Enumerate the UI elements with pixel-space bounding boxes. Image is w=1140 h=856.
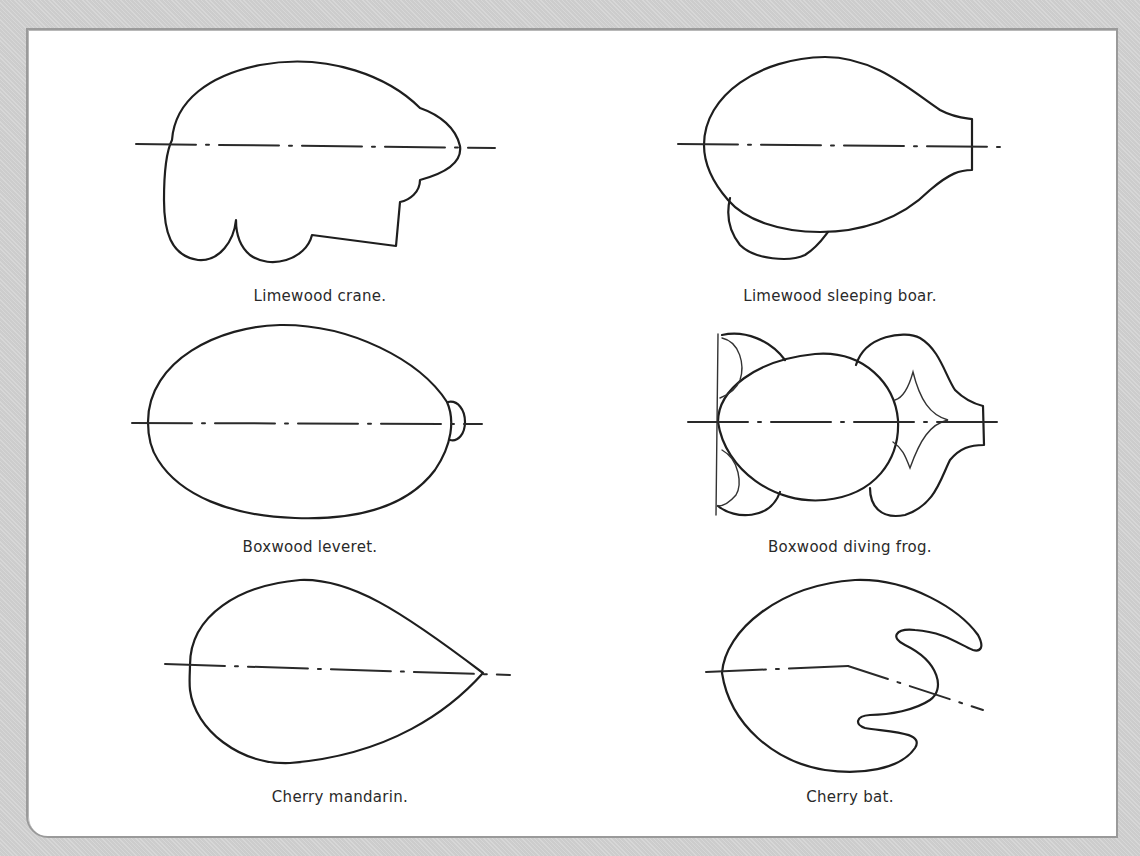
figure-boxwood-diving-frog: Boxwood diving frog. <box>680 320 1020 570</box>
figure-caption: Limewood crane. <box>120 287 520 305</box>
figure-boxwood-leveret: Boxwood leveret. <box>120 310 500 570</box>
frog-outline-icon <box>680 320 1020 530</box>
figure-cherry-bat: Cherry bat. <box>690 570 1010 820</box>
figure-limewood-sleeping-boar: Limewood sleeping boar. <box>660 40 1020 310</box>
figure-caption: Limewood sleeping boar. <box>660 287 1020 305</box>
figure-caption: Boxwood diving frog. <box>680 538 1020 556</box>
figure-caption: Boxwood leveret. <box>120 538 500 556</box>
bat-outline-icon <box>690 570 1010 780</box>
crane-outline-icon <box>120 40 520 280</box>
leveret-outline-icon <box>120 310 500 530</box>
figure-caption: Cherry mandarin. <box>150 788 530 806</box>
boar-outline-icon <box>660 40 1020 280</box>
figure-caption: Cherry bat. <box>690 788 1010 806</box>
figure-limewood-crane: Limewood crane. <box>120 40 520 310</box>
mandarin-outline-icon <box>150 570 530 780</box>
figure-cherry-mandarin: Cherry mandarin. <box>150 570 530 820</box>
